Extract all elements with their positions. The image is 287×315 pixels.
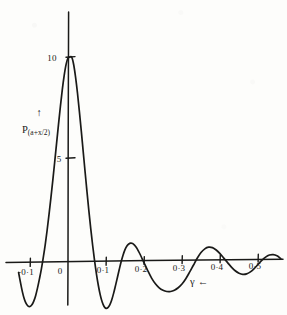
x-ticklabel-03: 0·3 — [173, 263, 186, 273]
x-ticklabel-01: 0·1 — [97, 265, 110, 275]
tick-marks — [30, 57, 258, 267]
y-ticklabel-10: 10 — [47, 53, 57, 63]
y-axis-label: P(a+x/2) — [22, 124, 50, 137]
y-axis-label-args: (a+x/2) — [28, 128, 51, 137]
x-ticklabel-neg01: -0·1 — [18, 267, 34, 277]
y-ticklabel-5: 5 — [57, 154, 62, 164]
x-ticklabel-0: 0 — [58, 266, 63, 276]
x-axis-label-symbol: γ — [189, 276, 195, 287]
x-ticklabel-02: 0·2 — [135, 264, 148, 274]
y-axis-arrow-icon: ↑ — [36, 107, 41, 118]
figure-plot: 10 5 -0·1 0 0·1 0·2 0·3 0·4 0·5 ↑ P(a+x/… — [0, 0, 287, 315]
x-axis-label: γ← — [189, 276, 208, 287]
x-axis-label-arrow: ← — [198, 276, 209, 287]
x-ticklabel-04: 0·4 — [211, 262, 224, 272]
x-ticklabel-05: 0·5 — [249, 261, 262, 271]
